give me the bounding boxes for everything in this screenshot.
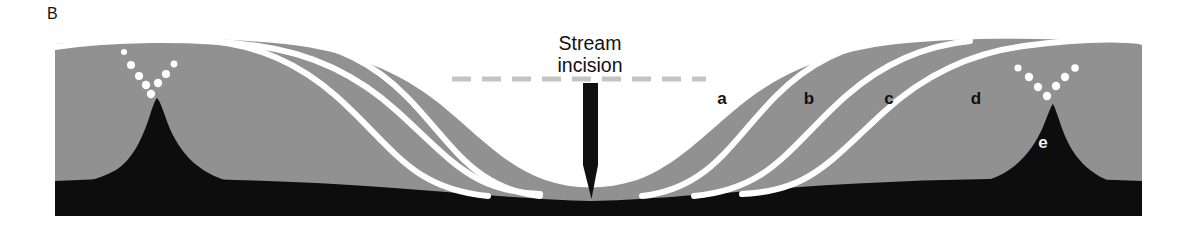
figure-panel-b: B (0, 0, 1182, 234)
unit-label-b: b (804, 89, 814, 108)
unit-label-a: a (717, 89, 727, 108)
stream-incision-label-line1: Stream (559, 32, 622, 54)
stream-incision-label-line2: incision (557, 54, 622, 76)
cross-section-diagram: Stream incision a b c d e (0, 0, 1182, 234)
unit-label-d: d (971, 89, 981, 108)
unit-label-e: e (1038, 133, 1047, 152)
unit-label-c: c (884, 89, 893, 108)
